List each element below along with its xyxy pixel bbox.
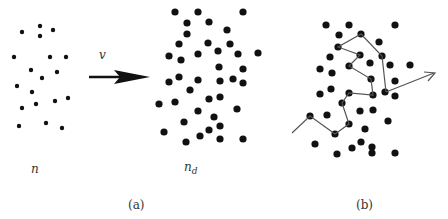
panel-b-caption: (b) bbox=[356, 198, 373, 212]
particle-dot bbox=[171, 98, 178, 105]
particle-dot bbox=[216, 77, 223, 84]
particle-dot bbox=[171, 8, 178, 15]
particle-dot bbox=[391, 149, 398, 156]
particle-dot bbox=[233, 105, 240, 112]
particle-dot bbox=[345, 21, 352, 28]
particle-dot bbox=[205, 18, 212, 25]
particle-dot bbox=[229, 75, 236, 82]
compressed-density-dots bbox=[155, 8, 261, 145]
particle-dot bbox=[348, 144, 355, 151]
particle-dot bbox=[15, 84, 19, 88]
particle-dot bbox=[322, 21, 329, 28]
particle-dot bbox=[29, 68, 33, 72]
particle-dot bbox=[239, 8, 246, 15]
particle-dot bbox=[215, 63, 222, 70]
random-walk-dots bbox=[306, 21, 413, 157]
density-after-base: n bbox=[184, 160, 192, 174]
particle-dot bbox=[239, 79, 246, 86]
particle-dot bbox=[175, 40, 182, 47]
particle-dot bbox=[391, 92, 398, 99]
particle-dot bbox=[155, 100, 162, 107]
particle-dot bbox=[391, 77, 398, 84]
particle-dot bbox=[48, 55, 52, 59]
particle-dot bbox=[205, 126, 212, 133]
particle-dot bbox=[183, 30, 190, 37]
particle-dot bbox=[327, 85, 334, 92]
particle-dot bbox=[182, 138, 189, 145]
particle-dot bbox=[194, 76, 201, 83]
figure-canvas bbox=[0, 0, 448, 219]
particle-dot bbox=[205, 95, 212, 102]
particle-dot bbox=[51, 28, 55, 32]
particle-dot bbox=[361, 125, 368, 132]
particle-dot bbox=[20, 106, 24, 110]
particle-dot bbox=[40, 76, 44, 80]
particle-dot bbox=[210, 113, 217, 120]
particle-dot bbox=[326, 53, 333, 60]
particle-dot bbox=[20, 30, 24, 34]
particle-dot bbox=[177, 56, 184, 63]
particle-dot bbox=[34, 102, 38, 106]
density-after-label: nd bbox=[184, 160, 198, 176]
velocity-label: v bbox=[99, 48, 106, 62]
particle-dot bbox=[186, 86, 193, 93]
density-before-label: n bbox=[31, 162, 39, 176]
particle-dot bbox=[183, 19, 190, 26]
particle-dot bbox=[375, 38, 382, 45]
particle-dot bbox=[366, 59, 373, 66]
particle-dot bbox=[391, 21, 398, 28]
particle-dot bbox=[180, 118, 187, 125]
particle-dot bbox=[12, 55, 16, 59]
particle-dot bbox=[38, 34, 42, 38]
particle-dot bbox=[406, 61, 413, 68]
particle-dot bbox=[368, 149, 375, 156]
particle-dot bbox=[226, 40, 233, 47]
particle-dot bbox=[216, 135, 223, 142]
particle-dot bbox=[194, 8, 201, 15]
particle-dot bbox=[204, 39, 211, 46]
particle-dot bbox=[38, 24, 42, 28]
particle-dot bbox=[223, 26, 230, 33]
particle-dot bbox=[316, 65, 323, 72]
particle-dot bbox=[335, 31, 342, 38]
particle-dot bbox=[175, 73, 182, 80]
particle-dot bbox=[194, 107, 201, 114]
particle-dot bbox=[160, 128, 167, 135]
initial-density-dots bbox=[12, 24, 70, 130]
particle-dot bbox=[254, 49, 261, 56]
particle-dot bbox=[64, 55, 68, 59]
particle-dot bbox=[239, 135, 246, 142]
particle-dot bbox=[234, 50, 241, 57]
particle-dot bbox=[357, 138, 364, 145]
panel-a-caption: (a) bbox=[128, 198, 145, 212]
particle-dot bbox=[30, 90, 34, 94]
particle-dot bbox=[60, 126, 64, 130]
particle-dot bbox=[216, 122, 223, 129]
particle-dot bbox=[44, 121, 48, 125]
particle-dot bbox=[316, 90, 323, 97]
particle-dot bbox=[214, 47, 221, 54]
particle-dot bbox=[216, 93, 223, 100]
particle-dot bbox=[369, 106, 376, 113]
particle-dot bbox=[323, 111, 330, 118]
particle-dot bbox=[384, 117, 391, 124]
particle-dot bbox=[66, 96, 70, 100]
particle-dot bbox=[328, 69, 335, 76]
particle-dot bbox=[53, 99, 57, 103]
particle-dot bbox=[17, 124, 21, 128]
particle-dot bbox=[165, 52, 172, 59]
particle-dot bbox=[356, 107, 363, 114]
particle-dot bbox=[386, 61, 393, 68]
particle-dot bbox=[196, 132, 203, 139]
particle-dot bbox=[55, 70, 59, 74]
particle-dot bbox=[239, 65, 246, 72]
particle-dot bbox=[194, 50, 201, 57]
particle-dot bbox=[311, 140, 318, 147]
particle-dot bbox=[165, 78, 172, 85]
particle-dot bbox=[333, 150, 340, 157]
density-after-subscript: d bbox=[192, 166, 198, 176]
velocity-arrow-icon bbox=[89, 70, 150, 84]
